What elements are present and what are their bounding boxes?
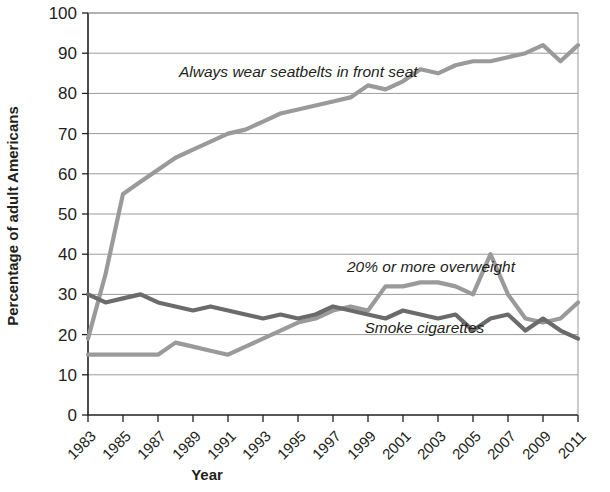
x-tick-label: 2009 [519, 427, 555, 463]
x-tick-label: 2005 [449, 427, 485, 463]
x-tick-label: 2007 [484, 427, 520, 463]
x-tick-label: 1995 [274, 427, 310, 463]
x-tick-label: 1987 [134, 427, 170, 463]
x-tick-marks-group [88, 415, 578, 422]
x-tick-label: 1989 [169, 427, 205, 463]
y-axis-title: Percentage of adult Americans [4, 106, 21, 326]
y-tick-labels-group: 0102030405060708090100 [49, 4, 77, 425]
series-line-2 [88, 294, 578, 338]
y-tick-label: 10 [58, 366, 77, 385]
series-annotation-0: Always wear seatbelts in front seat [178, 63, 418, 80]
y-tick-label: 100 [49, 4, 77, 23]
series-group [88, 45, 578, 355]
y-tick-label: 20 [58, 326, 77, 345]
y-tick-label: 70 [58, 125, 77, 144]
x-tick-label: 2011 [554, 427, 589, 462]
chart-container: 0102030405060708090100 19831985198719891… [0, 0, 610, 492]
x-tick-label: 2003 [414, 427, 450, 463]
x-tick-labels-group: 1983198519871989199119931995199719992001… [64, 427, 590, 463]
x-tick-label: 1983 [64, 427, 100, 463]
x-tick-label: 1997 [309, 427, 345, 463]
x-tick-label: 1993 [239, 427, 275, 463]
y-tick-label: 50 [58, 205, 77, 224]
y-tick-label: 60 [58, 165, 77, 184]
x-axis-title: Year [191, 466, 223, 483]
x-tick-label: 2001 [379, 427, 415, 463]
x-tick-label: 1991 [204, 427, 240, 463]
x-tick-label: 1985 [99, 427, 135, 463]
series-annotation-1: 20% or more overweight [346, 258, 516, 275]
series-annotation-2: Smoke cigarettes [365, 319, 485, 336]
y-tick-label: 90 [58, 44, 77, 63]
y-tick-label: 30 [58, 285, 77, 304]
y-tick-label: 80 [58, 84, 77, 103]
x-tick-label: 1999 [344, 427, 380, 463]
y-tick-label: 40 [58, 245, 77, 264]
y-tick-label: 0 [68, 406, 77, 425]
